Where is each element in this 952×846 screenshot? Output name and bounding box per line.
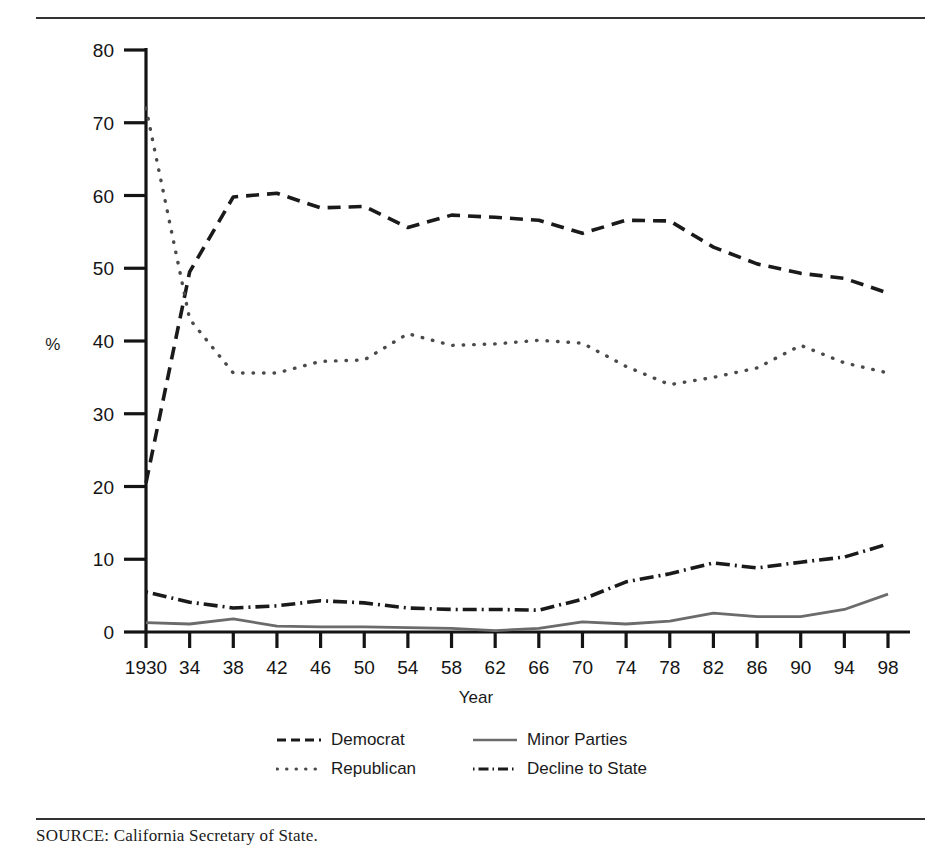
x-tick-label: 58 bbox=[441, 657, 462, 678]
x-tick-label: 38 bbox=[223, 657, 244, 678]
series-line-minor-parties bbox=[146, 594, 888, 630]
x-tick-label: 54 bbox=[397, 657, 419, 678]
y-tick-label: 70 bbox=[93, 113, 114, 134]
legend-swatch-dashed bbox=[276, 733, 322, 747]
series-line-democrat bbox=[146, 193, 888, 483]
legend-item-republican: Republican bbox=[276, 759, 472, 779]
legend-label-minor-parties: Minor Parties bbox=[527, 730, 627, 750]
x-tick-label: 82 bbox=[703, 657, 724, 678]
legend-swatch-dotted bbox=[276, 762, 322, 776]
y-tick-label: 50 bbox=[93, 258, 114, 279]
y-tick-label: 20 bbox=[93, 477, 114, 498]
y-tick-label: 30 bbox=[93, 404, 114, 425]
legend-label-democrat: Democrat bbox=[331, 730, 405, 750]
y-tick-label: 0 bbox=[103, 622, 114, 643]
figure-chart-party-registration: % Year 01020304050607080 193034384246505… bbox=[0, 0, 952, 846]
x-tick-label: 66 bbox=[528, 657, 549, 678]
x-tick-label: 98 bbox=[877, 657, 898, 678]
x-tick-label: 86 bbox=[746, 657, 767, 678]
x-tick-label: 34 bbox=[179, 657, 201, 678]
x-tick-label: 62 bbox=[485, 657, 506, 678]
y-tick-label: 80 bbox=[93, 40, 114, 61]
series-line-decline-to-state bbox=[146, 544, 888, 610]
data-series-group bbox=[146, 108, 888, 630]
x-tick-label: 46 bbox=[310, 657, 331, 678]
legend-item-democrat: Democrat bbox=[276, 730, 472, 750]
x-axis-ticks: 19303438424650545862667074788286909498 bbox=[125, 632, 899, 678]
y-tick-label: 10 bbox=[93, 549, 114, 570]
axes bbox=[146, 48, 910, 632]
legend-label-republican: Republican bbox=[331, 759, 416, 779]
plot-area: 01020304050607080 1930343842465054586266… bbox=[0, 0, 952, 846]
y-axis-ticks: 01020304050607080 bbox=[93, 40, 146, 643]
x-tick-label: 1930 bbox=[125, 657, 167, 678]
x-tick-label: 74 bbox=[616, 657, 638, 678]
x-tick-label: 70 bbox=[572, 657, 593, 678]
legend-item-decline-to-state: Decline to State bbox=[472, 759, 696, 779]
x-tick-label: 42 bbox=[266, 657, 287, 678]
bottom-divider-rule bbox=[36, 818, 925, 820]
legend-label-decline-to-state: Decline to State bbox=[527, 759, 647, 779]
legend-swatch-solid bbox=[472, 733, 518, 747]
chart-legend: Democrat Minor Parties Republican Declin… bbox=[276, 730, 696, 779]
legend-swatch-dashdot bbox=[472, 762, 518, 776]
x-tick-label: 90 bbox=[790, 657, 811, 678]
series-line-republican bbox=[146, 108, 888, 384]
source-note: SOURCE: California Secretary of State. bbox=[36, 826, 318, 846]
x-tick-label: 78 bbox=[659, 657, 680, 678]
y-tick-label: 60 bbox=[93, 186, 114, 207]
x-tick-label: 94 bbox=[834, 657, 856, 678]
x-tick-label: 50 bbox=[354, 657, 375, 678]
legend-item-minor-parties: Minor Parties bbox=[472, 730, 696, 750]
y-tick-label: 40 bbox=[93, 331, 114, 352]
